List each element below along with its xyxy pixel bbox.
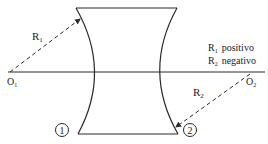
surface-1-number: 1 [60,125,65,136]
r2-label: R2 [193,86,204,100]
lens-surface-1 [76,8,95,134]
radius-r1-arrow [10,19,80,72]
o1-label: O1 [7,76,17,88]
surface-2-number: 2 [188,125,193,136]
legend-line-2: R2negativo [208,55,256,67]
lens-diagram: R1 R2 O1 O2 1 2 R1positivo R2negativo [0,0,268,144]
o2-label: O2 [246,76,256,88]
legend-line-1: R1positivo [208,42,254,54]
radius-r2-arrow [176,74,250,127]
r1-label: R1 [32,30,43,44]
lens-surface-2 [160,8,178,134]
